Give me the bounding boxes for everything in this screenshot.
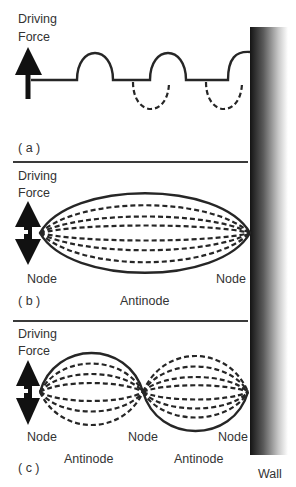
intermediate-state (40, 233, 250, 241)
panel-b: Driving Force Node Node ( b ) Antinode (14, 169, 250, 308)
intermediate-state (40, 233, 250, 250)
wall-label: Wall (258, 467, 282, 481)
intermediate-state (143, 377, 248, 392)
fundamental-envelope (40, 193, 250, 273)
string-with-pulses (31, 52, 250, 80)
node-label-middle: Node (128, 430, 158, 444)
antinode-label-1: Antinode (64, 452, 113, 466)
node-label-left: Node (27, 430, 57, 444)
node-label-right: Node (216, 272, 246, 286)
intermediate-state (40, 383, 143, 392)
driving-force-label-line1: Driving (18, 327, 57, 341)
panel-tag-a: ( a ) (18, 141, 40, 155)
node-label-right: Node (218, 430, 248, 444)
up-down-arrow-icon (14, 360, 40, 425)
wall: Wall (250, 27, 288, 481)
panel-a: Driving Force ( a ) (15, 12, 250, 155)
panel-tag-c: ( c ) (18, 461, 40, 475)
intermediate-state (143, 392, 248, 409)
intermediate-state (143, 385, 248, 392)
reflected-pulse-2 (206, 82, 242, 109)
driving-force-label-line1: Driving (18, 12, 57, 26)
wall-gradient (250, 27, 288, 455)
antinode-label: Antinode (120, 294, 169, 308)
up-arrow-icon (15, 47, 42, 99)
intermediate-state (40, 392, 143, 401)
driving-force-label-line1: Driving (18, 169, 57, 183)
driving-force-label-line2: Force (18, 186, 50, 200)
driving-force-label-line2: Force (18, 344, 50, 358)
driving-force-label-line2: Force (18, 30, 50, 44)
antinode-label-2: Antinode (174, 452, 223, 466)
up-down-arrow-icon (14, 201, 41, 265)
panel-c: Driving Force Node Node Node Antinode An… (14, 327, 248, 475)
reflected-pulse-1 (133, 82, 169, 109)
standing-wave-diagram: Wall Driving Force ( a ) Driving Force (0, 0, 296, 487)
intermediate-state (143, 356, 248, 392)
panel-tag-b: ( b ) (18, 294, 40, 308)
intermediate-state (143, 392, 248, 400)
node-label-left: Node (27, 272, 57, 286)
intermediate-state (40, 226, 250, 234)
